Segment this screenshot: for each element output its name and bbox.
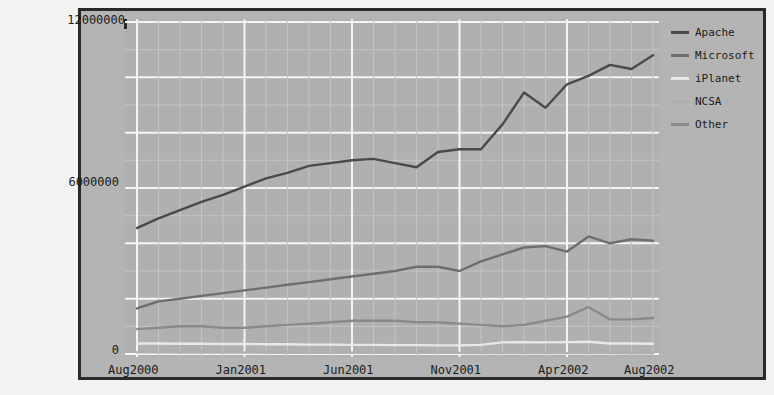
series-line: [137, 236, 653, 308]
legend-label: iPlanet: [695, 72, 741, 85]
legend-label: Other: [695, 118, 728, 131]
series-line: [137, 307, 653, 329]
legend-swatch-icon: [671, 100, 689, 103]
legend-item-microsoft[interactable]: Microsoft: [671, 44, 763, 67]
legend-item-other[interactable]: Other: [671, 113, 763, 136]
series-line: [137, 55, 653, 228]
x-axis-tick-aug2000: Aug2000: [108, 363, 159, 377]
chart-figure: 12000000 6000000 0 Aug2000Jan2001Jun2001…: [78, 8, 766, 380]
x-axis-tick-jun2001: Jun2001: [323, 363, 374, 377]
legend-item-ncsa[interactable]: NCSA: [671, 90, 763, 113]
series-line: [137, 352, 653, 353]
plot-area: [125, 19, 659, 357]
data-series-lines: [125, 19, 659, 357]
series-line: [137, 342, 653, 346]
legend-swatch-icon: [671, 77, 689, 80]
y-axis-tick-mid: 6000000: [39, 175, 119, 189]
legend-label: Microsoft: [695, 49, 755, 62]
legend-swatch-icon: [671, 54, 689, 57]
y-axis-tick-bottom: 0: [39, 343, 119, 357]
y-axis-tick-top: 12000000: [39, 13, 125, 27]
legend-item-iplanet[interactable]: iPlanet: [671, 67, 763, 90]
x-axis-tick-jan2001: Jan2001: [216, 363, 267, 377]
legend-label: Apache: [695, 26, 735, 39]
x-axis-tick-aug2002: Aug2002: [624, 363, 675, 377]
x-axis-tick-nov2001: Nov2001: [431, 363, 482, 377]
legend-item-apache[interactable]: Apache: [671, 21, 763, 44]
x-axis-tick-apr2002: Apr2002: [538, 363, 589, 377]
chart-legend: ApacheMicrosoftiPlanetNCSAOther: [671, 21, 763, 136]
legend-swatch-icon: [671, 31, 689, 34]
legend-label: NCSA: [695, 95, 722, 108]
legend-swatch-icon: [671, 123, 689, 126]
